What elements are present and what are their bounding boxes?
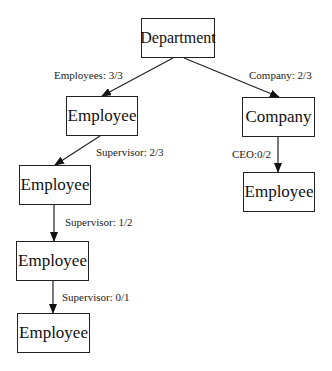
node-department[interactable]: Department	[141, 18, 215, 58]
edge-emp1-supervisor	[55, 136, 100, 165]
edge-label-supervisor-1: Supervisor: 2/3	[96, 146, 164, 158]
edge-label-supervisor-3: Supervisor: 0/1	[62, 291, 130, 303]
edge-label-ceo: CEO:0/2	[232, 148, 271, 160]
node-employee-ceo[interactable]: Employee	[243, 172, 315, 212]
node-employee-supervisor-3[interactable]: Employee	[17, 313, 90, 353]
edge-label-supervisor-2: Supervisor: 1/2	[65, 216, 133, 228]
edge-label-employees: Employees: 3/3	[54, 69, 123, 81]
node-employee-supervisor[interactable]: Employee	[19, 165, 91, 205]
edge-label-company: Company: 2/3	[249, 69, 312, 81]
node-company[interactable]: Company	[242, 97, 315, 137]
node-employee[interactable]: Employee	[66, 96, 138, 136]
node-employee-supervisor-2[interactable]: Employee	[16, 241, 89, 281]
